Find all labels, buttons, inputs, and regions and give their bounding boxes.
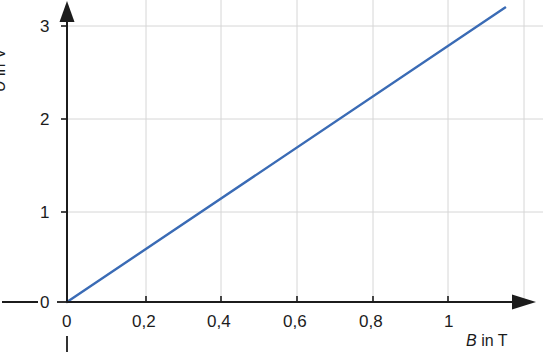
x-tick-label-0-4: 0,4: [207, 313, 231, 330]
x-axis-title-symbol: B: [466, 332, 477, 349]
y-axis-arrowhead-icon: [60, 1, 75, 22]
x-axis-title-mid: in: [481, 332, 493, 349]
y-axis-title-mid: in: [0, 64, 8, 76]
origin-annotations: [2, 302, 67, 352]
y-tick-label-1: 1: [40, 204, 49, 221]
y-tick-label-2: 2: [40, 111, 49, 128]
y-tick-label-3: 3: [40, 18, 49, 35]
x-tick-label-1: 1: [444, 313, 453, 330]
y-axis-title-unit: V: [0, 48, 8, 59]
series-line: [67, 8, 505, 302]
chart-figure: 3 2 1 0 0 0,2 0,4 0,6 0,8 1 U in V B in …: [0, 0, 543, 355]
chart-canvas: [0, 0, 543, 355]
y-axis-title-symbol: U: [0, 80, 8, 92]
vertical-gridlines: [146, 0, 524, 302]
y-tick-label-0: 0: [40, 294, 49, 311]
x-axis: [67, 295, 536, 310]
x-tick-label-0-2: 0,2: [132, 313, 156, 330]
x-axis-title: B in T: [466, 333, 508, 349]
x-tick-label-0-8: 0,8: [359, 313, 383, 330]
x-axis-title-unit: T: [498, 332, 508, 349]
data-series-u-of-b: [67, 8, 505, 302]
y-axis-title: U in V: [0, 48, 8, 92]
y-axis: [57, 1, 75, 302]
horizontal-gridlines: [67, 26, 543, 212]
x-tick-label-0: 0: [62, 313, 71, 330]
x-tick-label-0-6: 0,6: [283, 313, 307, 330]
